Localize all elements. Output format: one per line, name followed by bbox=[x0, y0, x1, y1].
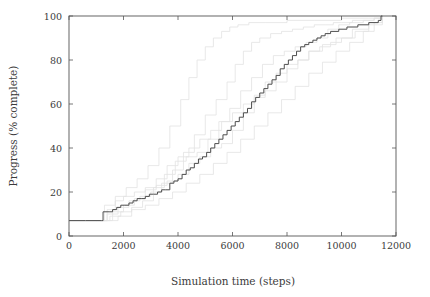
x-axis-title: Simulation time (steps) bbox=[171, 275, 295, 287]
series-mean-progress bbox=[69, 16, 382, 221]
x-tick-label: 8000 bbox=[275, 240, 299, 251]
series-run-1 bbox=[69, 16, 382, 221]
y-axis-title: Progress (% complete) bbox=[7, 66, 19, 187]
series-run-3 bbox=[69, 16, 382, 221]
y-tick-label: 60 bbox=[50, 99, 62, 110]
y-tick-label: 20 bbox=[50, 187, 62, 198]
y-tick-label: 100 bbox=[44, 11, 62, 22]
main-series-group bbox=[69, 16, 382, 221]
y-tick-label: 0 bbox=[56, 231, 62, 242]
x-tick-label: 6000 bbox=[220, 240, 244, 251]
background-series-group bbox=[69, 16, 382, 221]
chart-figure: 020004000600080001000012000020406080100 … bbox=[0, 0, 430, 297]
series-run-4 bbox=[69, 16, 382, 221]
x-tick-label: 0 bbox=[66, 240, 72, 251]
y-tick-label: 40 bbox=[50, 143, 62, 154]
x-tick-label: 12000 bbox=[381, 240, 411, 251]
series-run-2 bbox=[69, 16, 382, 221]
x-tick-label: 4000 bbox=[166, 240, 190, 251]
series-run-6-slow bbox=[69, 16, 382, 221]
x-tick-label: 10000 bbox=[326, 240, 356, 251]
series-run-5-fast bbox=[69, 16, 382, 221]
progress-line-chart: 020004000600080001000012000020406080100 … bbox=[0, 0, 430, 297]
x-tick-label: 2000 bbox=[111, 240, 135, 251]
y-tick-label: 80 bbox=[50, 55, 62, 66]
